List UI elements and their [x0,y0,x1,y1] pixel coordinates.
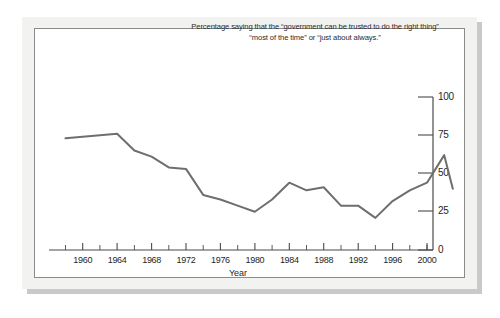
chart-title: Percentage saying that the “government c… [190,21,440,43]
y-tick-label: 100 [438,91,455,102]
x-tick-label: 1984 [280,255,299,265]
chart-svg: 100 75 50 25 0 [35,29,466,279]
plot-panel: 100 75 50 25 0 [34,28,465,278]
x-tick-label: 1996 [383,255,402,265]
x-tick-label: 1988 [314,255,333,265]
x-tick-label: 1992 [349,255,368,265]
x-tick-labels: 1960 1964 1968 1972 1976 1980 1984 1988 … [73,255,436,265]
y-tick-labels: 100 75 50 25 0 [438,91,455,255]
x-axis-title: Year [229,268,247,278]
y-tick-label: 25 [438,205,449,216]
x-tick-label: 1976 [211,255,230,265]
y-tick-label: 75 [438,129,449,140]
x-tick-label: 1968 [142,255,161,265]
trust-in-government-line [65,134,452,218]
y-tick-marks [418,97,433,250]
x-tick-label: 2000 [418,255,437,265]
figure-frame: 100 75 50 25 0 [22,17,477,289]
x-tick-label: 1972 [177,255,196,265]
chart-page: 100 75 50 25 0 [0,0,500,318]
y-tick-label: 0 [438,244,444,255]
x-tick-label: 1980 [245,255,264,265]
x-tick-label: 1960 [73,255,92,265]
x-tick-label: 1964 [108,255,127,265]
x-minor-ticks [66,245,428,250]
